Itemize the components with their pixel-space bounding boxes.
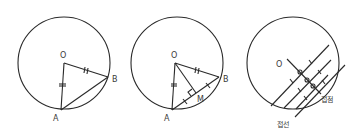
label-o: O: [171, 51, 177, 60]
label-tangent-line: 접선: [277, 120, 289, 129]
label-a: A: [164, 114, 170, 123]
tick: [309, 60, 312, 64]
label-o: O: [60, 51, 66, 60]
tick-ob-1: [195, 67, 196, 73]
diagram-3: O 접점 접선: [247, 17, 345, 129]
radius-ob: [175, 63, 219, 77]
tick: [322, 80, 325, 84]
label-o: O: [276, 60, 282, 69]
diagram-2: O B M A: [131, 17, 229, 123]
diagram-1: O B A: [18, 17, 118, 123]
tick-ob-2: [198, 68, 199, 74]
right-angle-mark: [188, 89, 192, 96]
tick-ob-2: [87, 68, 88, 74]
circle-geometry-diagrams: O B A O B M A O: [0, 0, 364, 137]
circle-2: [131, 17, 223, 109]
label-tangent-point: 접점: [321, 96, 333, 104]
tick: [290, 79, 293, 83]
radius-ob: [64, 63, 108, 77]
label-b: B: [223, 75, 229, 84]
segment-om: [175, 63, 196, 93]
label-a: A: [53, 114, 59, 123]
label-m: M: [197, 95, 204, 104]
label-b: B: [112, 75, 118, 84]
chord-ab: [61, 77, 108, 110]
perpendicular-diameter: [287, 59, 321, 94]
tick-ob-1: [84, 67, 85, 73]
